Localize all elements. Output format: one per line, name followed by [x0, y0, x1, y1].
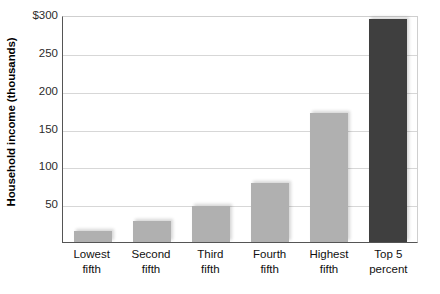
bar[interactable]: [74, 231, 112, 242]
bar-slot: [299, 17, 358, 242]
bar-slot: [358, 17, 417, 242]
y-axis-title-text: Household income (thousands): [5, 37, 17, 206]
bar[interactable]: [192, 206, 230, 242]
bar[interactable]: [251, 183, 289, 242]
x-axis-label: Fourthfifth: [240, 247, 299, 291]
bar-chart: Household income (thousands) 50100150200…: [0, 0, 440, 294]
x-axis-label: Secondfifth: [121, 247, 180, 291]
plot-area: [62, 16, 418, 243]
x-axis-label-line: Top 5: [374, 248, 402, 260]
bar-slot: [181, 17, 240, 242]
bar[interactable]: [369, 19, 407, 242]
x-axis-label-line: Fourth: [253, 248, 286, 260]
bar-slot: [63, 17, 122, 242]
y-axis-tick-labels: 50100150200250$300: [18, 0, 58, 250]
x-axis-label-line: percent: [359, 262, 418, 277]
x-axis-label-line: fifth: [181, 262, 240, 277]
x-axis-label: Lowestfifth: [62, 247, 121, 291]
bar[interactable]: [133, 221, 171, 242]
y-axis-tick-50: 50: [18, 199, 58, 211]
y-axis-tick-150: 150: [18, 124, 58, 136]
x-axis-label-line: Second: [131, 248, 170, 260]
x-axis-label-line: Lowest: [73, 248, 109, 260]
bar[interactable]: [310, 113, 348, 242]
x-axis-label-line: fifth: [240, 262, 299, 277]
bar-slot: [122, 17, 181, 242]
x-axis-label-line: Third: [197, 248, 223, 260]
bar-slot: [240, 17, 299, 242]
y-axis-tick-200: 200: [18, 86, 58, 98]
x-axis-label-line: fifth: [121, 262, 180, 277]
y-axis-tick-300: $300: [18, 10, 58, 22]
x-axis-label-line: Highest: [309, 248, 348, 260]
x-axis-label-line: fifth: [62, 262, 121, 277]
y-axis-tick-100: 100: [18, 162, 58, 174]
y-axis-tick-250: 250: [18, 48, 58, 60]
x-axis-label: Thirdfifth: [181, 247, 240, 291]
x-axis-label: Highestfifth: [299, 247, 358, 291]
bars-layer: [63, 17, 417, 242]
x-axis-label: Top 5percent: [359, 247, 418, 291]
x-axis-label-line: fifth: [299, 262, 358, 277]
x-axis-category-labels: LowestfifthSecondfifthThirdfifthFourthfi…: [62, 247, 418, 291]
